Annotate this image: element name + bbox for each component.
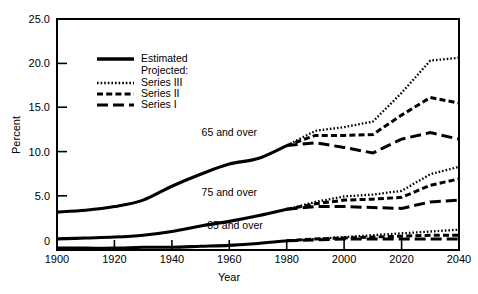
x-tick-label: 1900 [45,253,69,265]
y-tick-label: 5.0 [35,190,50,202]
y-axis-ticks [57,63,67,195]
y-tick-label: 15.0 [29,101,50,113]
y-tick-label: 0 [44,235,50,247]
series-annotations: 65 and over75 and over85 and over [202,126,264,230]
x-axis-title: Year [218,271,241,283]
x-tick-label: 1920 [102,253,126,265]
line-85-and-over-series1 [287,239,459,241]
y-tick-label: 25.0 [29,13,50,25]
legend-label-projected-header: Projected: [141,64,188,76]
y-tick-label: 10.0 [29,146,50,158]
legend-label-series1: Series I [141,98,177,110]
x-tick-label: 2000 [332,253,356,265]
line-65-and-over-estimated [57,146,287,213]
x-axis-tick-labels: 1900 1920 1940 1960 1980 2000 2020 2040 [45,253,471,265]
line-75-and-over-series1 [287,200,459,209]
x-tick-label: 1980 [274,253,298,265]
x-tick-label: 1940 [160,253,184,265]
x-tick-label: 2020 [389,253,413,265]
chart-container: 25.0 20.0 15.0 10.0 5.0 0 1900 1920 1940… [0,0,478,294]
legend: Estimated Projected: Series III Series I… [97,52,188,110]
y-axis-title: Percent [10,116,22,154]
y-axis-tick-labels: 25.0 20.0 15.0 10.0 5.0 0 [29,13,50,247]
y-tick-label: 20.0 [29,57,50,69]
legend-label-estimated: Estimated [141,52,188,64]
annotation-75-and-over: 75 and over [202,186,258,198]
x-tick-label: 2040 [447,253,471,265]
annotation-85-and-over: 85 and over [207,219,263,231]
x-tick-label: 1960 [217,253,241,265]
line-chart: 25.0 20.0 15.0 10.0 5.0 0 1900 1920 1940… [0,0,478,294]
annotation-65-and-over: 65 and over [202,126,258,138]
